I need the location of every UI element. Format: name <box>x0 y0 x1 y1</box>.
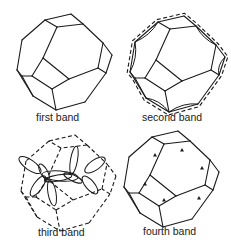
surface-edge <box>216 45 225 57</box>
fourth-band-label: fourth band <box>143 225 196 237</box>
zone-edge <box>52 89 56 110</box>
zone-edge <box>106 55 112 73</box>
second-band-label: second band <box>142 111 202 123</box>
zone-edge <box>98 68 106 73</box>
zone-edge <box>124 187 140 213</box>
third-band-panel <box>16 135 116 231</box>
zone-edge <box>45 20 57 27</box>
electron-pocket-marker <box>143 182 147 186</box>
zone-edge <box>124 157 129 187</box>
zone-edge <box>152 131 178 137</box>
fourth-band-panel <box>124 131 219 227</box>
zone-edge-dashed <box>107 164 116 176</box>
surface-edge <box>211 45 216 70</box>
fermi-surface-lobe <box>44 173 73 184</box>
surface-edge <box>135 22 158 42</box>
zone-edge-dashed <box>49 141 61 148</box>
zone-edge <box>159 196 176 206</box>
zone-edge <box>139 193 159 206</box>
zone-edge-dashed <box>75 135 87 145</box>
surface-edge <box>211 70 219 75</box>
zone-edge <box>98 43 103 68</box>
zone-edge <box>57 24 83 27</box>
surface-edge <box>170 26 196 29</box>
fermi-surface-lobe <box>68 146 80 175</box>
surface-edge <box>146 98 169 112</box>
zone-edge-dashed <box>102 189 110 194</box>
first-band-label: first band <box>36 111 79 123</box>
zone-edge <box>71 14 83 24</box>
surface-edge <box>156 29 170 60</box>
zone-edge-dashed <box>89 194 110 223</box>
zone-edge-dashed <box>110 176 116 194</box>
zone-edge <box>83 24 103 43</box>
surface-edge <box>145 60 156 78</box>
surface-edge <box>156 60 182 81</box>
zone-edge-dashed <box>36 197 56 210</box>
zone-edge <box>85 73 106 102</box>
zone-edge <box>178 131 190 141</box>
electron-pocket-marker <box>197 196 201 200</box>
third-band-label: third band <box>38 226 85 238</box>
zone-edge <box>22 20 45 40</box>
zone-edge <box>17 40 22 70</box>
zone-edge-dashed <box>56 200 73 210</box>
zone-edge <box>52 79 69 89</box>
zone-edge <box>205 160 210 185</box>
fermi-surface-lobe <box>79 174 100 197</box>
electron-pocket-marker <box>180 148 184 152</box>
surface-edge <box>198 75 219 104</box>
zone-edge <box>32 58 43 76</box>
electron-pocket-marker <box>153 153 157 157</box>
surface-edge <box>145 78 165 91</box>
zone-edge <box>129 137 152 157</box>
electron-pocket-marker <box>162 198 166 202</box>
zone-edge <box>103 43 112 55</box>
zone-edge <box>213 172 219 190</box>
zone-edge <box>69 68 98 79</box>
zone-edge <box>43 58 69 79</box>
zone-edge <box>17 70 33 96</box>
fermi-surface-lobe <box>16 153 43 176</box>
zone-edge-dashed <box>87 145 107 164</box>
zone-edge <box>176 185 205 196</box>
zone-edge <box>205 185 213 190</box>
zone-edge <box>43 27 57 58</box>
zone-edge-dashed <box>26 141 49 161</box>
zone-edge <box>159 206 163 227</box>
electron-pocket-marker <box>200 166 204 170</box>
surface-edge <box>196 26 216 45</box>
zone-edge-dashed <box>21 191 37 217</box>
zone-edge <box>150 144 164 175</box>
zone-edge <box>32 76 52 89</box>
zone-edge <box>152 137 164 144</box>
zone-edge <box>192 190 213 219</box>
brillouin-zone-figure <box>0 0 231 247</box>
second-band-panel <box>127 13 228 115</box>
zone-edge <box>45 14 71 20</box>
surface-edge <box>165 81 182 91</box>
surface-edge <box>182 70 211 81</box>
zone-edge <box>33 96 56 110</box>
first-band-panel <box>17 14 112 110</box>
zone-edge <box>150 175 176 196</box>
zone-edge <box>164 141 190 144</box>
zone-edge <box>56 102 85 110</box>
zone-edge <box>190 141 210 160</box>
surface-edge <box>158 22 170 29</box>
zone-edge-dashed <box>102 164 107 189</box>
fermi-surface-lobe <box>82 154 107 176</box>
zone-edge <box>210 160 219 172</box>
zone-edge-dashed <box>49 135 75 141</box>
surface-edge <box>130 72 146 98</box>
